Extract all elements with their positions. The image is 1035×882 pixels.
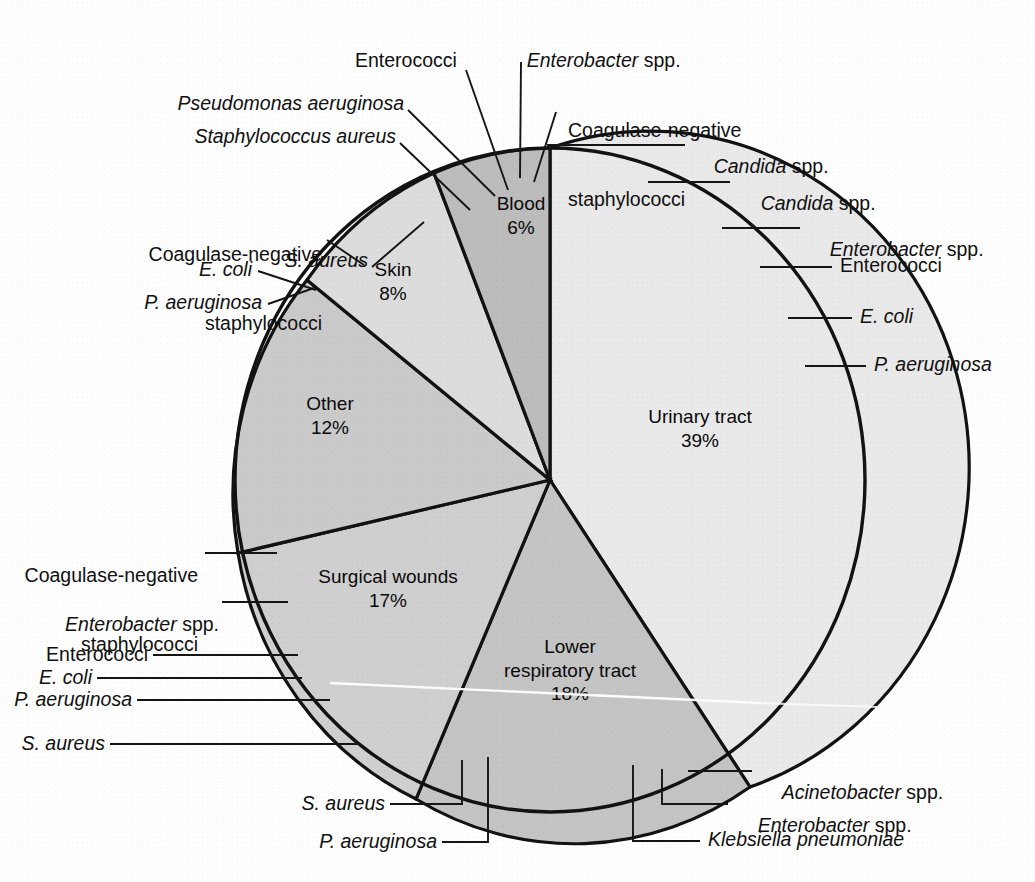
callout-enterobacter-top-spp: spp. xyxy=(638,49,680,71)
callout-staphylococcus-aureus: Staphylococcus aureus xyxy=(0,125,396,148)
slice-label-surgical-wounds-pct: 17% xyxy=(293,589,483,613)
slice-label-urinary-tract: Urinary tract 39% xyxy=(595,405,805,452)
slice-label-lrt-name-1: Lower xyxy=(470,635,670,659)
callout-enterobacter-ut-spp: spp. xyxy=(941,238,983,260)
callout-klebsiella-lrt: Klebsiella pneumoniae xyxy=(708,828,904,851)
callout-e-coli-sw: E. coli xyxy=(0,666,92,689)
slice-label-blood-pct: 6% xyxy=(466,216,576,240)
slice-label-skin-pct: 8% xyxy=(338,282,448,306)
callout-enterococci-sw: Enterococci xyxy=(0,643,148,666)
slice-label-blood: Blood 6% xyxy=(466,192,576,239)
slice-label-surgical-wounds: Surgical wounds 17% xyxy=(293,565,483,612)
callout-enterobacter-sw-genus: Enterobacter xyxy=(65,613,177,635)
callout-p-aeruginosa-lrt: P. aeruginosa xyxy=(0,830,437,853)
callout-s-aureus-sw: S. aureus xyxy=(0,732,105,755)
callout-pseudomonas-aeruginosa: Pseudomonas aeruginosa xyxy=(0,92,404,115)
callout-e-coli-skin: E. coli xyxy=(0,258,252,281)
slice-label-surgical-wounds-name: Surgical wounds xyxy=(293,565,483,589)
callout-enterococci-ut: Enterococci xyxy=(840,254,942,277)
slice-label-lrt-pct: 18% xyxy=(470,682,670,706)
callout-e-coli-ut: E. coli xyxy=(860,305,913,328)
callout-candida-2-genus: Candida xyxy=(761,192,834,214)
slice-label-blood-name: Blood xyxy=(466,192,576,216)
callout-cns-skin: Coagulase-negative staphylococci xyxy=(0,197,322,381)
pie-chart-figure: Blood 6% Skin 8% Other 12% Surgical woun… xyxy=(0,0,1035,882)
slice-label-other: Other 12% xyxy=(275,392,385,439)
callout-candida-2-spp: spp. xyxy=(833,192,875,214)
slice-label-other-name: Other xyxy=(275,392,385,416)
callout-p-aeruginosa-sw: P. aeruginosa xyxy=(0,688,132,711)
callout-cns-skin-line2: staphylococci xyxy=(0,312,322,335)
callout-enterobacter-sw-spp: spp. xyxy=(177,613,219,635)
slice-label-other-pct: 12% xyxy=(275,416,385,440)
callout-p-aeruginosa-ut: P. aeruginosa xyxy=(874,353,992,376)
callout-enterococci-top: Enterococci xyxy=(355,49,457,72)
callout-enterobacter-top-genus: Enterobacter xyxy=(527,49,639,71)
callout-p-aeruginosa-skin: P. aeruginosa xyxy=(0,291,262,314)
slice-label-urinary-tract-name: Urinary tract xyxy=(595,405,805,429)
callout-cns-sw-line1: Coagulase-negative xyxy=(0,564,198,587)
slice-label-urinary-tract-pct: 39% xyxy=(595,429,805,453)
slice-label-lower-respiratory-tract: Lower respiratory tract 18% xyxy=(470,635,670,706)
slice-label-lrt-name-2: respiratory tract xyxy=(470,659,670,683)
callout-s-aureus-lrt: S. aureus xyxy=(0,792,385,815)
